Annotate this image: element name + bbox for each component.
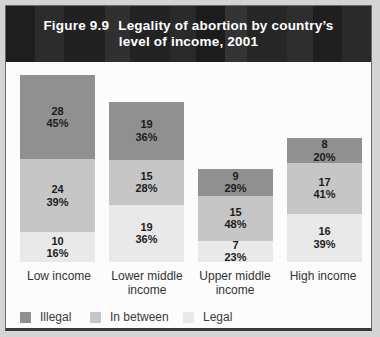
legend-item-illegal: Illegal xyxy=(20,311,90,323)
figure-title-text: Legality of abortion by country’s xyxy=(118,18,333,33)
segment-count: 16 xyxy=(318,225,330,238)
segment-percent: 48% xyxy=(224,218,246,231)
segment-legal: 10 16% xyxy=(20,232,95,262)
segment-count: 10 xyxy=(51,235,63,248)
category-label-upper-middle-income: Upper middle income xyxy=(196,270,274,297)
bar-chart: 28 45% 24 39% 10 16% 19 36% 15 28% 19 xyxy=(20,75,362,262)
figure-title-line2: level of income, 2001 xyxy=(6,34,371,50)
category-label-lower-middle-income: Lower middle income xyxy=(108,270,186,297)
figure-number: Figure 9.9 xyxy=(43,18,109,33)
segment-legal: 19 36% xyxy=(109,205,184,263)
segment-count: 7 xyxy=(232,239,238,252)
legend-label: Legal xyxy=(203,311,232,323)
segment-percent: 36% xyxy=(135,233,157,246)
segment-count: 17 xyxy=(318,176,330,189)
segment-percent: 29% xyxy=(224,182,246,195)
segment-count: 15 xyxy=(229,206,241,219)
segment-illegal: 19 36% xyxy=(109,102,184,160)
legend-item-in-between: In between xyxy=(90,311,183,323)
segment-percent: 41% xyxy=(313,188,335,201)
segment-in-between: 15 28% xyxy=(109,160,184,205)
segment-count: 15 xyxy=(140,170,152,183)
figure-title-line1: Figure 9.9Legality of abortion by countr… xyxy=(6,18,371,34)
segment-percent: 45% xyxy=(46,117,68,130)
segment-percent: 16% xyxy=(46,247,68,260)
segment-count: 19 xyxy=(140,118,152,131)
segment-percent: 39% xyxy=(313,238,335,251)
segment-percent: 23% xyxy=(224,251,246,264)
bar-lower-middle-income: 19 36% 15 28% 19 36% xyxy=(109,102,184,262)
figure-header: Figure 9.9Legality of abortion by countr… xyxy=(6,6,371,62)
legal-swatch-icon xyxy=(183,312,194,323)
category-axis: Low income Lower middle income Upper mid… xyxy=(20,270,362,297)
legend-label: Illegal xyxy=(40,311,71,323)
segment-illegal: 9 29% xyxy=(198,169,273,196)
bar-upper-middle-income: 9 29% 15 48% 7 23% xyxy=(198,169,273,262)
category-label-low-income: Low income xyxy=(20,270,98,297)
segment-percent: 36% xyxy=(135,131,157,144)
segment-in-between: 24 39% xyxy=(20,159,95,232)
segment-legal: 7 23% xyxy=(198,241,273,263)
segment-illegal: 28 45% xyxy=(20,75,95,159)
segment-count: 28 xyxy=(51,105,63,118)
segment-count: 8 xyxy=(321,138,327,151)
category-label-high-income: High income xyxy=(284,270,362,297)
chart-legend: Illegal In between Legal xyxy=(20,311,232,323)
segment-count: 19 xyxy=(140,221,152,234)
segment-in-between: 17 41% xyxy=(287,163,362,214)
bar-high-income: 8 20% 17 41% 16 39% xyxy=(287,138,362,262)
illegal-swatch-icon xyxy=(20,312,31,323)
segment-illegal: 8 20% xyxy=(287,138,362,163)
segment-percent: 28% xyxy=(135,182,157,195)
segment-count: 9 xyxy=(232,170,238,183)
figure-9-9: Figure 9.9Legality of abortion by countr… xyxy=(5,5,372,331)
segment-percent: 39% xyxy=(46,196,68,209)
segment-legal: 16 39% xyxy=(287,214,362,262)
segment-in-between: 15 48% xyxy=(198,196,273,241)
bar-low-income: 28 45% 24 39% 10 16% xyxy=(20,75,95,262)
in-between-swatch-icon xyxy=(90,312,101,323)
legend-label: In between xyxy=(110,311,169,323)
segment-count: 24 xyxy=(51,183,63,196)
legend-item-legal: Legal xyxy=(183,311,232,323)
segment-percent: 20% xyxy=(313,151,335,164)
